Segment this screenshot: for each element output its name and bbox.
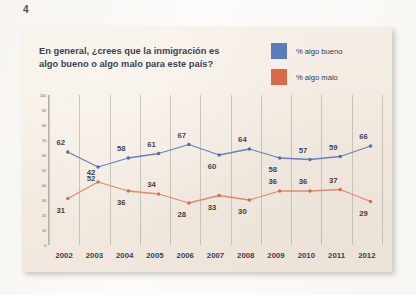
chart-card: En general, ¿crees que la inmigración es… [22,27,392,272]
x-tick-2004: 2004 [116,251,133,260]
y-tick-20: 20 [42,213,46,218]
data-label-algo-bueno-2008: 64 [238,135,247,144]
data-label-algo-malo-2008: 30 [238,207,247,216]
data-label-algo-malo-2005: 34 [147,180,156,189]
data-label-algo-malo-2002: 31 [56,205,65,214]
chart-legend: % algo bueno % algo malo [271,38,376,90]
legend-label-algo-bueno: % algo bueno [296,47,342,56]
x-tick-2003: 2003 [86,251,103,260]
data-label-algo-malo-2004: 36 [117,198,126,207]
x-tick-2005: 2005 [146,251,163,260]
y-tick-40: 40 [42,183,46,188]
y-tick-0: 0 [44,243,46,248]
data-label-algo-bueno-2010: 57 [299,145,308,154]
data-label-algo-malo-2007: 33 [208,202,217,211]
data-label-algo-bueno-2005: 61 [147,139,156,148]
x-tick-2010: 2010 [298,251,315,260]
x-tick-2007: 2007 [207,251,224,260]
x-tick-2011: 2011 [328,251,345,260]
y-tick-70: 70 [42,138,46,143]
legend-item-algo-malo: % algo malo [271,64,376,90]
page-number: 4 [23,4,29,15]
x-axis-tick-labels: 2002200320042005200620072008200920102011… [49,247,382,265]
legend-swatch-algo-malo [271,69,287,85]
chart-title-line-2: algo bueno o algo malo para este país? [39,58,254,71]
legend-swatch-algo-bueno [271,43,287,59]
x-tick-2002: 2002 [55,251,72,260]
y-tick-80: 80 [42,123,46,128]
data-label-algo-malo-2011: 37 [329,175,338,184]
chart-title: En general, ¿crees que la inmigración es… [39,45,254,72]
data-label-algo-malo-2006: 28 [178,210,187,219]
data-label-algo-bueno-2009: 58 [268,165,277,174]
y-tick-10: 10 [42,228,46,233]
y-tick-60: 60 [42,153,46,158]
data-label-algo-malo-2009: 36 [268,177,277,186]
y-tick-100: 100 [40,93,46,98]
legend-item-algo-bueno: % algo bueno [271,38,376,64]
data-label-algo-bueno-2006: 67 [178,130,187,139]
y-tick-30: 30 [42,198,46,203]
data-label-algo-malo-2012: 29 [359,208,368,217]
x-tick-2009: 2009 [267,251,284,260]
data-label-algo-bueno-2004: 58 [117,144,126,153]
x-tick-2008: 2008 [237,251,254,260]
data-label-algo-malo-2010: 36 [299,177,308,186]
data-label-algo-malo-2003: 42 [87,168,96,177]
data-label-algo-bueno-2011: 59 [329,142,338,151]
plot-area: 1009080706050403020100 62525861676064585… [28,95,386,267]
chart-title-line-1: En general, ¿crees que la inmigración es [39,45,254,58]
legend-label-algo-malo: % algo malo [296,73,338,82]
data-label-algo-bueno-2012: 66 [359,132,368,141]
x-tick-2012: 2012 [358,251,375,260]
y-tick-90: 90 [42,108,46,113]
data-label-algo-bueno-2002: 62 [56,138,65,147]
x-tick-2006: 2006 [177,251,194,260]
gridline [382,95,383,245]
y-tick-50: 50 [42,168,46,173]
y-axis-tick-labels: 1009080706050403020100 [28,95,46,245]
data-point-labels: 6252586167606458575966314236342833303636… [49,95,382,245]
data-label-algo-bueno-2007: 60 [208,162,217,171]
